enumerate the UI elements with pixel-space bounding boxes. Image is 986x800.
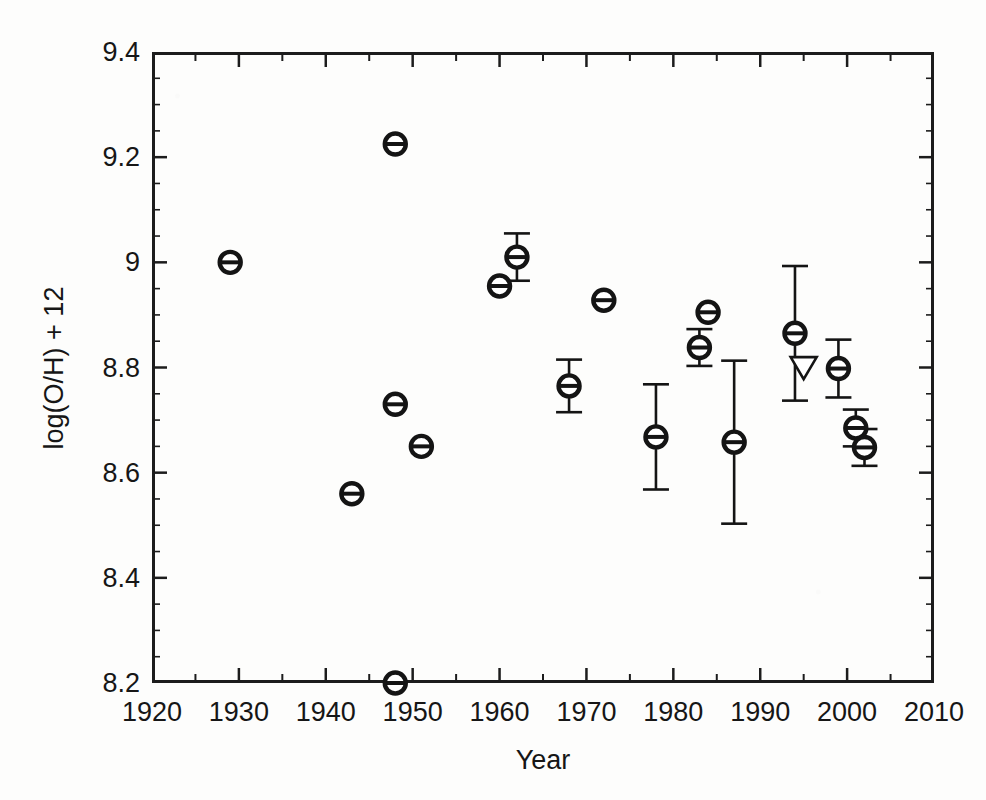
- y-tick-label: 8.4: [66, 562, 140, 593]
- y-tick-label: 9: [66, 247, 140, 278]
- data-point-circle: [559, 375, 580, 396]
- x-tick-label: 2010: [904, 697, 964, 728]
- x-tick-label: 2000: [817, 697, 877, 728]
- y-axis-major-ticks: [154, 157, 933, 578]
- x-axis-minor-ticks: [195, 54, 890, 682]
- y-tick-label: 9.4: [66, 37, 140, 68]
- x-tick-label: 1970: [556, 697, 616, 728]
- x-tick-label: 1920: [122, 697, 182, 728]
- data-point-circle: [854, 437, 875, 458]
- data-point-circle: [698, 302, 719, 323]
- chart-figure: 8.28.48.68.899.29.4 19201930194019501960…: [0, 0, 986, 800]
- plot-canvas: [0, 0, 986, 800]
- data-markers: [220, 134, 875, 694]
- data-point-circle: [385, 134, 406, 155]
- x-tick-label: 1990: [730, 697, 790, 728]
- y-tick-label: 8.6: [66, 457, 140, 488]
- x-tick-label: 1960: [470, 697, 530, 728]
- data-point-circle: [341, 483, 362, 504]
- x-tick-label: 1950: [383, 697, 443, 728]
- data-point-circle: [411, 436, 432, 457]
- data-point-circle: [385, 394, 406, 415]
- data-point-circle: [724, 432, 745, 453]
- y-tick-label: 8.2: [66, 668, 140, 699]
- data-point-circle: [689, 337, 710, 358]
- data-point-circle: [828, 358, 849, 379]
- x-axis-major-ticks: [239, 54, 847, 682]
- data-point-circle: [385, 673, 406, 694]
- y-tick-label: 9.2: [66, 142, 140, 173]
- x-tick-label: 1980: [643, 697, 703, 728]
- data-point-circle: [220, 252, 241, 273]
- data-point-circle: [784, 323, 805, 344]
- data-point-circle: [506, 247, 527, 268]
- y-axis-minor-ticks: [154, 78, 933, 656]
- data-point-circle: [593, 290, 614, 311]
- x-axis-title: Year: [516, 745, 571, 776]
- y-tick-label: 8.8: [66, 352, 140, 383]
- data-point-circle: [645, 426, 666, 447]
- x-tick-label: 1940: [296, 697, 356, 728]
- x-tick-label: 1930: [209, 697, 269, 728]
- data-point-circle: [489, 275, 510, 296]
- y-axis-title: log(O/H) + 12: [39, 287, 70, 450]
